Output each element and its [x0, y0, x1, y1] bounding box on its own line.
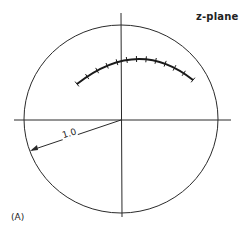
panel-label: (A)	[11, 212, 24, 222]
z-plane-diagram	[0, 0, 251, 244]
arc-tick-marks	[75, 56, 195, 86]
root-locus-arc	[77, 59, 193, 84]
arrowhead-icon	[30, 145, 38, 151]
plane-label: z-plane	[196, 11, 239, 22]
imaginary-axis	[121, 13, 122, 217]
tick-mark	[126, 57, 127, 63]
tick-mark	[146, 56, 147, 62]
tick-mark	[155, 58, 156, 64]
